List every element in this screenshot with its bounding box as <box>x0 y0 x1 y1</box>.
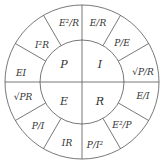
formula-e2-over-p: E²/P <box>111 120 132 130</box>
formula-e-over-i: E/I <box>135 91 150 101</box>
formula-wheel: P I R E E²/R E/R P/E √P/R E/I E²/P P/I² … <box>0 0 165 165</box>
formula-sqrt-pr: √PR <box>14 92 33 102</box>
formula-p-over-i: P/I <box>31 121 45 131</box>
formula-i2r: I²R <box>34 40 49 50</box>
formula-ei: EI <box>15 68 27 78</box>
inner-label-i: I <box>97 58 103 71</box>
formula-p-over-e: P/E <box>113 38 130 48</box>
formula-p-over-i2: P/I² <box>86 140 104 150</box>
formula-e-over-r: E/R <box>89 18 107 28</box>
inner-label-e: E <box>59 95 68 108</box>
formula-e2-over-r: E²/R <box>58 18 79 28</box>
formula-sqrt-p-over-r: √P/R <box>132 67 154 77</box>
inner-label-p: P <box>59 58 68 71</box>
formula-ir: IR <box>61 138 73 148</box>
inner-label-r: R <box>95 95 104 108</box>
